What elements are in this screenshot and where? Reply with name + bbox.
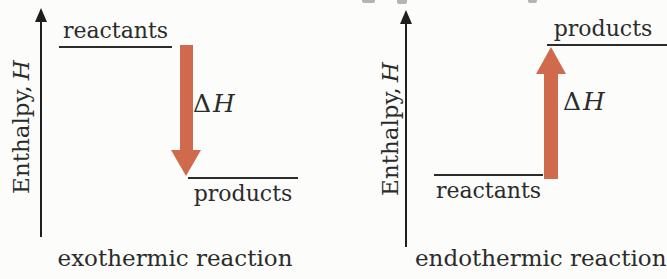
cropped-text-artifact [528, 0, 537, 3]
products-level-line [547, 44, 667, 46]
enthalpy-axis-label: Enthalpy,H [377, 54, 403, 204]
reactants-label: reactants [434, 178, 543, 203]
reactants-label: reactants [59, 18, 172, 43]
enthalpy-diagrams-figure: Enthalpy,H reactants ΔH products exother… [0, 0, 667, 279]
enthalpy-axis [40, 20, 42, 237]
delta-symbol: Δ [193, 89, 211, 118]
exothermic-caption: exothermic reaction [50, 245, 300, 271]
delta-h-label: ΔH [563, 87, 605, 116]
delta-symbol: Δ [563, 87, 581, 116]
delta-h-arrow-up-icon [536, 47, 566, 74]
products-level-line [188, 177, 298, 179]
axis-label-text: Enthalpy, [377, 87, 403, 196]
axis-label-text: Enthalpy, [8, 85, 34, 194]
axis-label-symbol: H [8, 60, 34, 80]
endothermic-caption: endothermic reaction [415, 245, 665, 271]
delta-h-arrow-shaft [180, 45, 193, 151]
reactants-level-line [59, 46, 172, 48]
cropped-text-artifact [362, 0, 375, 3]
products-label: products [547, 16, 659, 41]
delta-h-arrow-shaft [544, 73, 558, 179]
delta-h-label: ΔH [193, 89, 235, 118]
cropped-text-artifact [397, 0, 407, 4]
products-label: products [188, 181, 298, 206]
delta-h-symbol: H [213, 89, 235, 118]
delta-h-arrow-down-icon [171, 150, 201, 176]
enthalpy-axis-label: Enthalpy,H [8, 52, 34, 202]
axis-label-symbol: H [377, 62, 403, 82]
enthalpy-axis [405, 22, 407, 247]
reactants-level-line [434, 174, 543, 176]
delta-h-symbol: H [583, 87, 605, 116]
